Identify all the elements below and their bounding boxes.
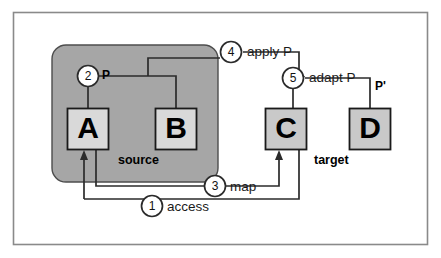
property-p-prime-label: P' xyxy=(375,80,386,92)
node-c-label: C xyxy=(265,113,307,143)
step-label-access: access xyxy=(167,200,209,214)
target-zone-label: target xyxy=(314,154,349,167)
property-p-label: P xyxy=(102,69,110,81)
step-number-1: 1 xyxy=(142,200,162,212)
node-d-label: D xyxy=(349,113,391,143)
step-number-3: 3 xyxy=(205,180,225,192)
step-number-2: 2 xyxy=(78,70,98,82)
step-label-apply-p: apply P xyxy=(247,45,292,59)
diagram-canvas: A B C D source target P P' 1 2 3 4 5 acc… xyxy=(0,0,441,258)
source-zone-label: source xyxy=(118,154,159,167)
step-number-4: 4 xyxy=(221,46,241,58)
node-a-label: A xyxy=(67,113,109,143)
step-label-map: map xyxy=(230,180,256,194)
step-number-5: 5 xyxy=(283,72,303,84)
node-b-label: B xyxy=(155,113,197,143)
step-label-adapt-p: adapt P xyxy=(309,71,356,85)
